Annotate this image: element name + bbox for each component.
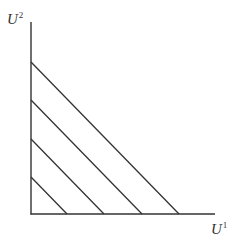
x-axis-label: U1	[211, 222, 227, 237]
frontier-line-1	[31, 177, 67, 214]
y-axis-label: U2	[7, 12, 23, 27]
frontier-line-2	[31, 139, 104, 214]
frontier-line-4	[31, 62, 179, 214]
utility-possibility-diagram	[0, 0, 241, 244]
parallel-frontier-lines	[31, 62, 179, 214]
